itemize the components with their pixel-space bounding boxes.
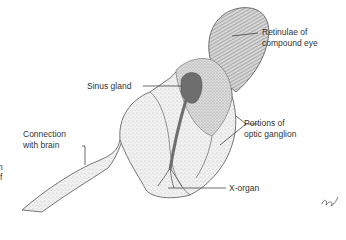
edge-text-fragment-1: n <box>0 162 3 172</box>
sinus-gland-shape <box>181 73 202 104</box>
label-retinulae-line2: compound eye <box>262 38 318 48</box>
label-brain-line1: Connection <box>23 129 66 139</box>
artist-signature <box>322 197 338 206</box>
label-sinus-gland: Sinus gland <box>87 81 131 91</box>
label-optic-line1: Portions of <box>244 118 285 128</box>
label-brain-line2: with brain <box>23 140 59 150</box>
label-optic-line2: optic ganglion <box>244 129 296 139</box>
label-x-organ: X-organ <box>229 183 259 193</box>
edge-text-fragment-2: f <box>0 172 2 182</box>
label-retinulae-line1: Retinulae of <box>262 27 307 37</box>
